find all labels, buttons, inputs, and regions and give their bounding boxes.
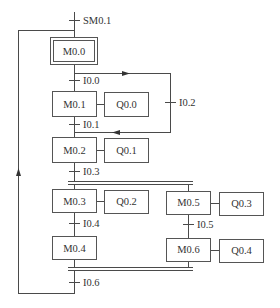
action-q03-label: Q0.3 (231, 198, 252, 209)
left-arrow-icon (112, 130, 120, 135)
transition-label-i02: I0.2 (179, 97, 196, 108)
action-q02-label: Q0.2 (116, 196, 137, 207)
action-q00-label: Q0.0 (116, 99, 137, 110)
step-m00-label: M0.0 (63, 46, 85, 57)
transition-label-sm01: SM0.1 (83, 15, 111, 26)
transition-label-i04: I0.4 (83, 218, 100, 229)
right-arrow-icon (122, 71, 130, 76)
step-m03-label: M0.3 (63, 196, 85, 207)
transition-label-i01: I0.1 (83, 119, 100, 130)
transition-label-i06: I0.6 (83, 277, 100, 288)
transition-label-i03: I0.3 (83, 166, 100, 177)
sfc-diagram: SM0.1 M0.0 I0.0 I0.2 M0.1 Q0.0 I0.1 M0.2… (0, 0, 280, 308)
step-m04-label: M0.4 (63, 243, 86, 254)
sfc-canvas: SM0.1 M0.0 I0.0 I0.2 M0.1 Q0.0 I0.1 M0.2… (0, 0, 280, 308)
transition-label-i05: I0.5 (197, 219, 214, 230)
action-q04-label: Q0.4 (231, 245, 252, 256)
up-arrow-icon (16, 168, 21, 176)
step-m05-label: M0.5 (177, 197, 199, 208)
step-m01-label: M0.1 (63, 99, 85, 110)
step-m06-label: M0.6 (177, 244, 199, 255)
transition-label-i00: I0.0 (83, 75, 100, 86)
step-m02-label: M0.2 (63, 145, 85, 156)
action-q01-label: Q0.1 (116, 145, 137, 156)
